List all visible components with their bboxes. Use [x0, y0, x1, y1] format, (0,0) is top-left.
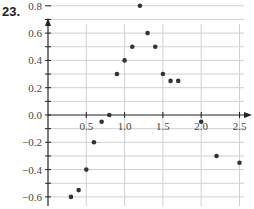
data-point — [237, 160, 242, 165]
data-point — [122, 58, 127, 63]
y-tick-label: −0.4 — [22, 164, 42, 176]
y-tick-label: 0.6 — [28, 27, 42, 39]
y-tick-label: 0.4 — [28, 54, 42, 66]
data-point — [92, 140, 97, 145]
data-point — [84, 167, 89, 172]
data-point — [161, 72, 166, 77]
x-tick-label: 0.5 — [79, 120, 93, 132]
data-point — [76, 188, 81, 193]
data-point — [199, 120, 204, 125]
data-point — [145, 31, 150, 36]
y-tick-label: 0.0 — [28, 109, 42, 121]
x-axis-arrow-icon — [244, 112, 252, 118]
x-tick-label: 1.5 — [156, 120, 170, 132]
data-point — [99, 120, 104, 125]
data-point — [130, 44, 135, 49]
y-tick-label: 0.2 — [28, 82, 42, 94]
data-point — [69, 195, 74, 200]
data-point — [176, 79, 181, 84]
y-tick-label: −0.6 — [22, 191, 42, 203]
scatter-chart: 0.80.60.40.20.0−0.2−0.4−0.6−0.80.51.01.5… — [0, 0, 254, 209]
x-tick-label: 2.5 — [233, 120, 247, 132]
data-point — [107, 113, 112, 118]
x-tick-label: 1.0 — [118, 120, 132, 132]
data-point — [115, 72, 120, 77]
data-point — [168, 79, 173, 84]
data-point — [138, 3, 143, 8]
y-tick-label: −0.2 — [22, 136, 42, 148]
data-point — [214, 154, 219, 159]
data-point — [153, 44, 158, 49]
y-tick-label: 0.8 — [28, 0, 42, 12]
